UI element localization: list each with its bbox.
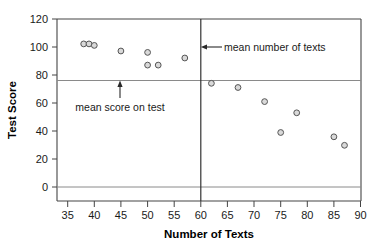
annotation-mean-score: mean score on test bbox=[75, 81, 164, 114]
y-tick-label: 80 bbox=[36, 69, 48, 81]
mean-texts-arrow-head-icon bbox=[201, 44, 207, 49]
scatter-plot-figure: 120 100 80 60 40 20 0 35 40 45 bbox=[0, 0, 384, 249]
data-point bbox=[262, 99, 268, 105]
plot-canvas: 120 100 80 60 40 20 0 35 40 45 bbox=[0, 0, 384, 249]
y-tick-label: 120 bbox=[30, 13, 48, 25]
y-axis-title: Test Score bbox=[6, 81, 18, 139]
x-tick-label: 85 bbox=[328, 209, 340, 221]
y-tick-label: 60 bbox=[36, 97, 48, 109]
data-points bbox=[81, 41, 348, 148]
x-tick-label: 70 bbox=[248, 209, 260, 221]
y-tick-label: 0 bbox=[42, 181, 48, 193]
x-tick-label: 55 bbox=[168, 209, 180, 221]
mean-score-annotation-label: mean score on test bbox=[75, 101, 164, 113]
data-point bbox=[91, 43, 97, 49]
x-tick-label: 90 bbox=[354, 209, 366, 221]
data-point bbox=[294, 110, 300, 116]
x-axis-ticks bbox=[68, 201, 361, 207]
x-tick-label: 60 bbox=[195, 209, 207, 221]
data-point bbox=[118, 48, 124, 54]
data-point bbox=[278, 130, 284, 136]
data-point bbox=[331, 134, 337, 140]
mean-texts-annotation-label: mean number of texts bbox=[224, 41, 326, 53]
x-tick-label: 65 bbox=[221, 209, 233, 221]
y-axis-tick-labels: 120 100 80 60 40 20 0 bbox=[30, 13, 48, 193]
data-point bbox=[155, 62, 161, 68]
data-point bbox=[145, 50, 151, 56]
y-tick-label: 40 bbox=[36, 125, 48, 137]
data-point bbox=[235, 85, 241, 91]
y-axis-ticks bbox=[52, 19, 57, 187]
data-point bbox=[145, 62, 151, 68]
annotation-mean-texts: mean number of texts bbox=[201, 41, 326, 53]
x-tick-label: 45 bbox=[115, 209, 127, 221]
data-point bbox=[182, 55, 188, 61]
x-tick-label: 40 bbox=[88, 209, 100, 221]
x-axis-title: Number of Texts bbox=[164, 228, 254, 240]
y-tick-label: 100 bbox=[30, 41, 48, 53]
x-tick-label: 75 bbox=[275, 209, 287, 221]
x-axis-tick-labels: 35 40 45 50 55 60 65 70 75 80 85 90 bbox=[62, 209, 367, 221]
data-point bbox=[209, 80, 215, 86]
y-tick-label: 20 bbox=[36, 153, 48, 165]
x-tick-label: 35 bbox=[62, 209, 74, 221]
x-tick-label: 80 bbox=[301, 209, 313, 221]
mean-score-arrow-head-icon bbox=[117, 81, 122, 88]
x-tick-label: 50 bbox=[141, 209, 153, 221]
data-point bbox=[342, 142, 348, 148]
